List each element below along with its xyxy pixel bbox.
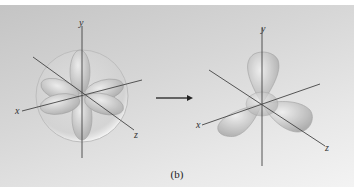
svg-text:z: z [133,129,138,140]
svg-text:y: y [260,23,266,34]
svg-text:z: z [324,142,329,153]
transition-arrow [156,95,193,101]
figure-caption: (b) [0,168,354,180]
svg-text:y: y [78,17,84,28]
left-orbital-diagram: y x z [14,17,142,158]
svg-text:x: x [14,105,20,116]
right-orbital-diagram: y x z [195,23,329,166]
orbital-diagram: y x z y x z [0,0,354,196]
svg-text:x: x [195,119,201,130]
